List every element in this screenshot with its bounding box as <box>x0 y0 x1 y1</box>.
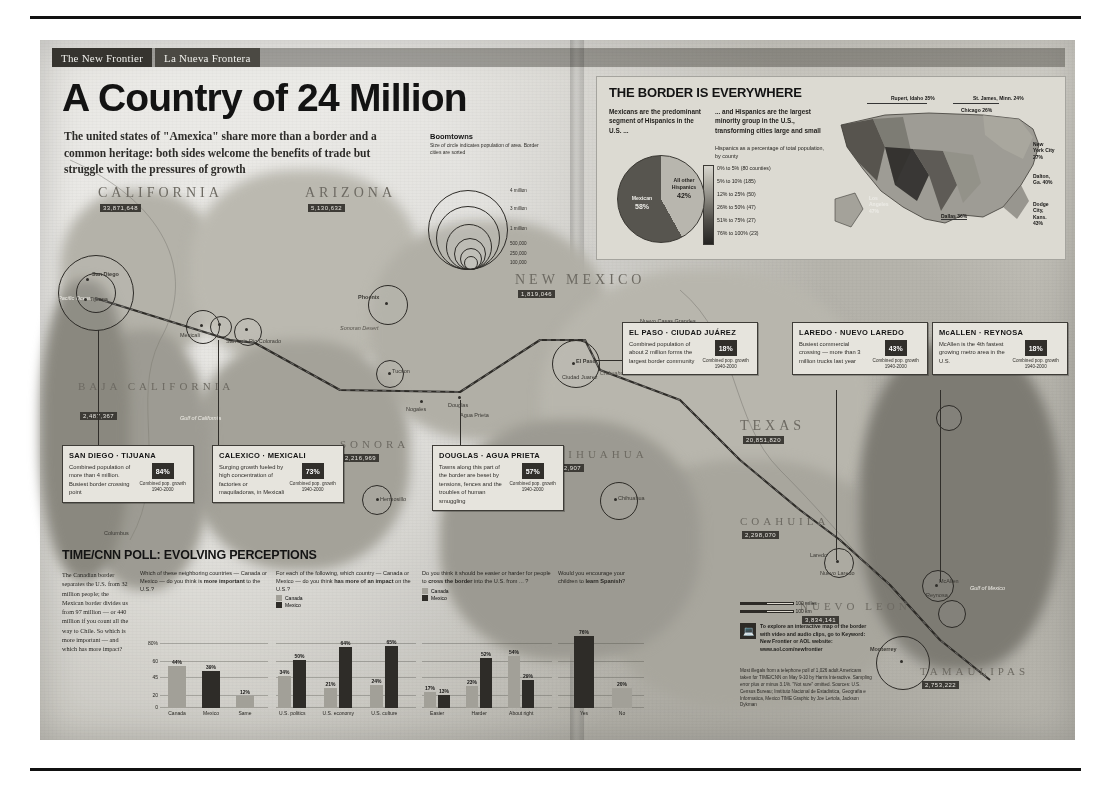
us-city-name: Rupert, Idaho <box>891 95 923 101</box>
poll-chart-1: 80% 60 45 20 0 44% Canada 39% Mexico 12% <box>160 632 268 720</box>
poll-question-3: Do you think it should be easier or hard… <box>422 570 552 720</box>
poll-chart-3: 17% Easier 13% 23% Harder 52% 54% <box>422 632 552 720</box>
poll-bar-canada: 34% U.S. politics <box>278 676 291 708</box>
legend-range: 12% to 25% <box>717 191 745 197</box>
us-city-pct: 24% <box>1014 95 1024 101</box>
poll-bar-canada: 23% Harder <box>466 686 478 708</box>
state-label-tamaulipas: TAMAULIPAS <box>920 665 1029 677</box>
city-label-reynosa: Reynosa <box>926 592 948 598</box>
bie-legend-row-1: 5% to 10% (185) <box>717 178 756 184</box>
poll-question-4-title: Would you encourage your children to lea… <box>558 570 644 586</box>
pie-slice-label-other: All other Hispanics 42% <box>667 177 701 200</box>
boomtown-circle-calexico <box>210 316 232 338</box>
callout-mcallen-reynosa[interactable]: McALLEN · REYNOSA McAllen is the 4th fas… <box>932 322 1068 375</box>
state-tag-arizona: 5,130,632 <box>308 204 345 212</box>
poll-key-2: Canada Mexico <box>276 595 416 608</box>
bar-category: U.S. economy <box>323 710 354 716</box>
state-tag-california: 33,871,648 <box>100 204 141 212</box>
city-label-chihuahua-city: Chihuahua <box>618 495 645 501</box>
poll-panel: TIME/CNN POLL: EVOLVING PERCEPTIONS The … <box>62 548 642 720</box>
city-label-tucson: Tucson <box>392 368 410 374</box>
us-city-name: Dallas <box>941 213 956 219</box>
bar-value: 29% <box>523 673 533 679</box>
masthead: The New Frontier La Nueva Frontera <box>52 48 260 67</box>
bar-category: Easier <box>430 710 444 716</box>
us-city-pct: 26% <box>982 107 992 113</box>
poll-question-2-title: For each of the following, which country… <box>276 570 416 593</box>
state-label-texas: TEXAS <box>740 418 805 434</box>
callout-san-diego-tijuana[interactable]: SAN DIEGO · TIJUANA Combined population … <box>62 445 194 503</box>
city-dot-phoenix <box>385 302 388 305</box>
leader-line-calexico <box>218 340 219 445</box>
bie-legend-title: Hispanics as a percentage of total popul… <box>715 145 825 160</box>
callout-el-paso-ciudad-juarez[interactable]: EL PASO · CIUDAD JUÁREZ Combined populat… <box>622 322 758 375</box>
key-label-canada: Canada <box>431 588 449 594</box>
masthead-title-en: The New Frontier <box>52 48 152 67</box>
boomtowns-legend-title: Boomtowns <box>430 132 540 141</box>
city-dot-monterrey <box>900 660 903 663</box>
bar-value: 39% <box>206 664 216 670</box>
bar-category: Harder <box>472 710 487 716</box>
city-dot-chihuahua <box>614 498 617 501</box>
poll-bar-mexico: 65% <box>385 646 398 708</box>
bie-legend-row-0: 0% to 5% (80 counties) <box>717 165 771 171</box>
poll-bar-mexico: 29% <box>522 680 534 708</box>
us-city-name: St. James, Minn. <box>973 95 1012 101</box>
bar-category: Canada <box>168 710 186 716</box>
key-label-canada: Canada <box>285 595 303 601</box>
bie-legend-colorbar <box>703 165 714 245</box>
legend-count: (185) <box>744 178 756 184</box>
interactive-map-note[interactable]: 💻 To explore an interactive map of the b… <box>740 623 868 653</box>
callout-pct-badge: 84% <box>152 463 174 479</box>
scale-segment-dark-km <box>740 610 766 613</box>
city-label-nuevo-laredo: Nuevo Laredo <box>820 570 855 576</box>
scale-segment-light <box>766 602 794 605</box>
axis-label-0: 0 <box>155 704 158 710</box>
bottom-rule <box>30 768 1081 771</box>
city-dot-yuma <box>245 328 248 331</box>
city-label-columbus: Columbus <box>104 530 129 536</box>
city-dot-laredo <box>836 560 839 563</box>
callout-title: LAREDO · NUEVO LAREDO <box>799 328 921 337</box>
city-dot-douglas <box>458 396 461 399</box>
bie-legend-row-2: 12% to 25% (50) <box>717 191 756 197</box>
us-city-pct: 35% <box>925 95 935 101</box>
city-label-douglas: Douglas <box>448 402 468 408</box>
poll-question-1-title: Which of these neighboring countries — C… <box>140 570 268 593</box>
callout-body: Towns along this part of the border are … <box>439 463 505 505</box>
key-swatch-canada <box>422 588 428 594</box>
city-label-san-diego: San Diego <box>92 271 119 277</box>
callout-calexico-mexicali[interactable]: CALEXICO · MEXICALI Surging growth fuele… <box>212 445 344 503</box>
scale-label-miles: 100 miles <box>795 600 816 606</box>
callout-laredo-nuevo-laredo[interactable]: LAREDO · NUEVO LAREDO Busiest commercial… <box>792 322 928 375</box>
bar-category: No <box>619 710 625 716</box>
bie-legend-row-5: 76% to 100% (23) <box>717 230 759 236</box>
callout-body: Busiest commercial crossing — more than … <box>799 340 867 369</box>
key-swatch-mexico <box>422 595 428 601</box>
leader-line-laredo <box>836 390 837 560</box>
us-map-leader-rupert <box>867 103 927 104</box>
boomtown-circle-san-diego-inner <box>76 273 116 313</box>
callout-douglas-agua-prieta[interactable]: DOUGLAS · AGUA PRIETA Towns along this p… <box>432 445 564 511</box>
bar-category: About right <box>509 710 533 716</box>
callout-pct-badge: 43% <box>885 340 907 356</box>
bar-value: 23% <box>467 679 477 685</box>
interactive-note-text: To explore an interactive map of the bor… <box>760 623 868 653</box>
bar-value: 52% <box>481 651 491 657</box>
bar-category: U.S. politics <box>279 710 305 716</box>
legend-count: (50) <box>746 191 755 197</box>
pie-label-text: All other Hispanics <box>672 177 697 190</box>
poll-bar-mexico: 39% Mexico <box>202 671 220 708</box>
poll-bar-canada: 24% U.S. culture <box>370 685 383 708</box>
city-dot-san-diego <box>86 278 89 281</box>
scale-label-km: 100 km <box>795 608 811 614</box>
poll-title: TIME/CNN POLL: EVOLVING PERCEPTIONS <box>62 548 642 562</box>
map-label-gulf-of-mexico: Gulf of Mexico <box>970 585 1005 591</box>
legend-range: 26% to 50% <box>717 204 745 210</box>
question-emphasis: has more of an impact <box>334 578 393 584</box>
us-map-label-dalton: Dalton, Ga. 40% <box>1033 173 1055 186</box>
bie-column-2: ... and Hispanics are the largest minori… <box>715 107 825 135</box>
poll-bar-canada: 54% About right <box>508 656 520 708</box>
legend-range: 5% to 10% <box>717 178 742 184</box>
us-city-pct: 43% <box>1033 220 1043 226</box>
